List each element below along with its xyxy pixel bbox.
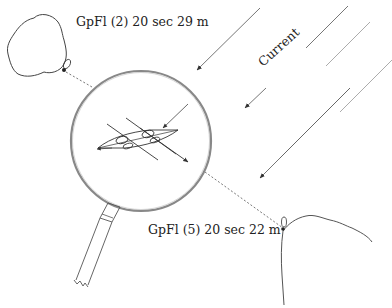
diagram-canvas	[0, 0, 392, 308]
navigation-diagram: GpFl (2) 20 sec 29 m GpFl (5) 20 sec 22 …	[0, 0, 392, 308]
bearing-line-right	[205, 172, 283, 228]
left-island	[7, 15, 72, 77]
current-arrow-icon	[260, 88, 350, 178]
light-marker-left-icon	[62, 68, 66, 72]
light-label-right: GpFl (5) 20 sec 22 m	[148, 222, 281, 237]
bearing-line-left	[66, 72, 92, 87]
current-arrow-icon	[245, 88, 266, 108]
light-marker-right-icon	[281, 227, 285, 231]
magnifying-glass	[71, 71, 211, 287]
light-label-left: GpFl (2) 20 sec 29 m	[76, 14, 209, 29]
right-coast	[281, 215, 372, 305]
